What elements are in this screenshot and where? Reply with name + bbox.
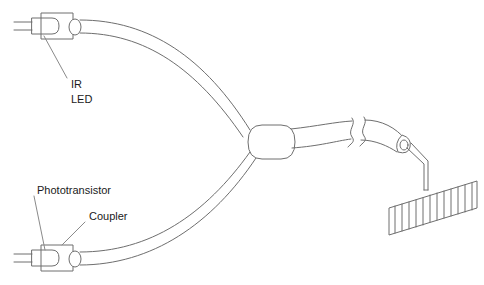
fiber-upper-edge-inner: [80, 33, 243, 137]
phototransistor-coupler-housing: [41, 245, 73, 271]
leader-phototransistor: [34, 196, 45, 250]
fiber-lower-edge-outer: [80, 152, 250, 252]
fiber-lower: [80, 152, 256, 265]
label-ir-led-line1: IR: [71, 78, 82, 90]
label-coupler: Coupler: [89, 210, 128, 222]
phototransistor-fiber-ferrule: [69, 251, 81, 267]
fiber-coupler-diagram: IR LED Phototransistor Coupler: [0, 0, 484, 285]
ir-led-fiber-ferrule: [69, 19, 81, 35]
fiber-upper: [80, 20, 250, 137]
label-ir-led-line2: LED: [71, 93, 92, 105]
coupler-junction: [248, 125, 295, 159]
cable-seg2-edge-lower: [361, 140, 397, 152]
fiber-upper-edge-outer: [80, 20, 250, 130]
probe-needle-edge-right: [411, 143, 428, 190]
cable-break-symbol-left: [348, 118, 353, 147]
cable-seg2-edge-upper: [365, 120, 405, 139]
phototransistor-assembly: [14, 245, 81, 271]
probe-needle: [407, 143, 428, 190]
cable-seg1-edge-upper: [291, 121, 352, 129]
label-phototransistor: Phototransistor: [37, 184, 111, 196]
striped-target-strip: [389, 181, 477, 235]
cable-break-symbol-right: [360, 117, 365, 146]
leader-coupler: [62, 222, 85, 245]
coupler-junction-body: [248, 125, 295, 159]
ir-led-assembly: [14, 13, 81, 39]
cable-seg1-edge-lower: [292, 139, 351, 148]
output-cable: [291, 117, 410, 153]
ir-led-coupler-housing: [41, 13, 73, 39]
diagram-canvas: IR LED Phototransistor Coupler: [0, 0, 484, 285]
leader-ir-led: [44, 36, 67, 78]
